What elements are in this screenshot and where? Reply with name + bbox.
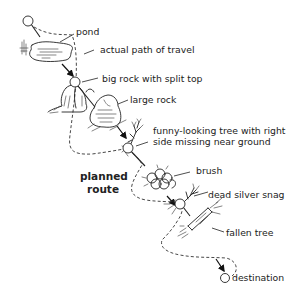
big-rock-waypoint-circle <box>70 77 80 87</box>
label-fallen-tree: fallen tree <box>226 227 274 238</box>
label-brush: brush <box>196 165 222 176</box>
label-funny-tree-2: side missing near ground <box>153 136 271 147</box>
label-actual-path: actual path of travel <box>100 44 195 55</box>
actual-path-dashed-line <box>34 27 236 276</box>
snag-waypoint-circle <box>175 199 185 209</box>
label-planned-route-1: planned <box>80 170 128 182</box>
label-pond: pond <box>76 26 99 37</box>
label-large-rock: large rock <box>130 94 177 105</box>
label-planned-route-2: route <box>87 183 119 195</box>
brush-icon <box>142 165 176 189</box>
large-rock-icon <box>88 95 126 131</box>
label-big-rock: big rock with split top <box>102 73 203 84</box>
label-destination: destination <box>232 272 284 283</box>
start-waypoint-circle <box>23 16 33 26</box>
navigation-diagram: pond actual path of travel big rock with… <box>0 0 294 289</box>
pond-icon <box>20 40 73 62</box>
funny-tree-waypoint-circle <box>123 143 133 153</box>
label-dead-snag: dead silver snag <box>208 189 285 200</box>
split-rock-icon <box>48 85 94 113</box>
destination-waypoint-circle <box>221 274 230 283</box>
label-funny-tree-1: funny-looking tree with right <box>153 125 286 136</box>
